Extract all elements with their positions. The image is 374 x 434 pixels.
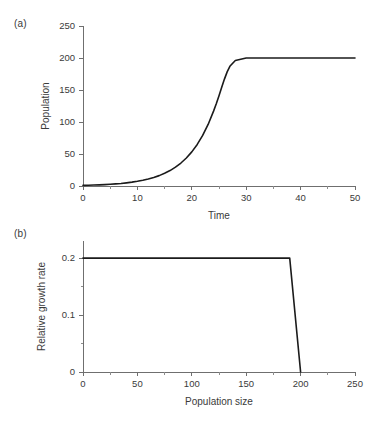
x-axis-title: Population size: [185, 396, 253, 407]
x-tick-label: 200: [293, 378, 309, 389]
x-tick-label: 0: [80, 192, 85, 203]
panel-a: (a) 01020304050050100150200250TimePopula…: [0, 0, 374, 217]
x-tick-label: 40: [295, 192, 306, 203]
y-tick-label: 0.1: [62, 309, 75, 320]
x-tick-label: 10: [132, 192, 143, 203]
x-tick-label: 100: [184, 378, 200, 389]
data-curve: [83, 258, 301, 372]
y-tick-label: 0.2: [62, 252, 75, 263]
y-tick-label: 250: [59, 20, 75, 31]
x-tick-label: 150: [238, 378, 254, 389]
y-tick-label: 100: [59, 116, 75, 127]
x-tick-label: 20: [187, 192, 198, 203]
y-axis-title: Relative growth rate: [36, 262, 47, 351]
y-tick-label: 0: [70, 366, 75, 377]
y-tick-label: 200: [59, 52, 75, 63]
x-tick-label: 0: [80, 378, 85, 389]
axis-lines: [83, 241, 355, 372]
y-tick-label: 50: [64, 148, 75, 159]
x-tick-label: 50: [350, 192, 361, 203]
y-tick-label: 150: [59, 84, 75, 95]
y-axis-title: Population: [40, 82, 51, 129]
x-tick-label: 250: [347, 378, 363, 389]
x-tick-label: 30: [241, 192, 252, 203]
panel-b: (b) 05010015020025000.10.2Population siz…: [0, 217, 374, 434]
panel-a-plot: 01020304050050100150200250TimePopulation: [0, 0, 374, 217]
y-tick-label: 0: [70, 180, 75, 191]
figure-population-growth: (a) 01020304050050100150200250TimePopula…: [0, 0, 374, 434]
data-curve: [83, 58, 355, 185]
x-tick-label: 50: [132, 378, 143, 389]
axis-lines: [83, 26, 355, 186]
panel-b-plot: 05010015020025000.10.2Population sizeRel…: [0, 217, 374, 434]
